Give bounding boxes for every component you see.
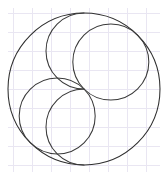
figure-container xyxy=(0,0,168,179)
geometry-figure xyxy=(0,0,168,179)
